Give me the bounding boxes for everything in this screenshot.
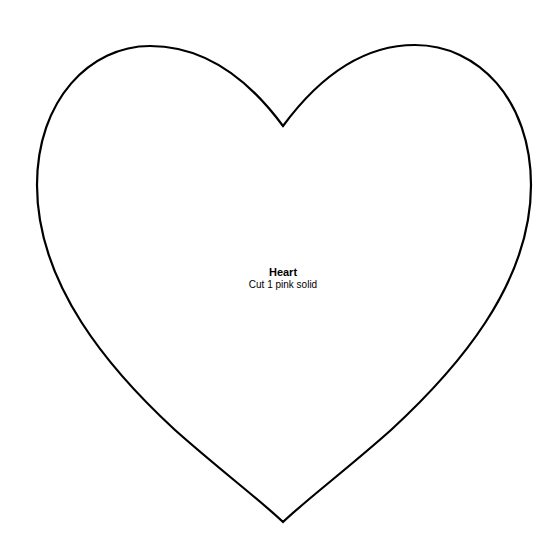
pattern-title: Heart <box>183 266 383 279</box>
cut-instruction: Cut 1 pink solid <box>183 279 383 291</box>
pattern-label: Heart Cut 1 pink solid <box>183 266 383 291</box>
